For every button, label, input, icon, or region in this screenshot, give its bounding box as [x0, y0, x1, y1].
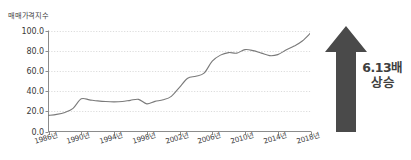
- change-label: 상승: [354, 75, 411, 90]
- multiplier-value: 6.13배: [362, 60, 402, 75]
- y-tick-label: 60.0: [27, 67, 44, 76]
- y-tick-label: 20.0: [27, 107, 44, 116]
- y-tick-label: 80.0: [27, 47, 44, 56]
- price-index-line: [49, 33, 311, 115]
- y-tick-label: 40.0: [27, 87, 44, 96]
- increase-annotation: 6.13배 상승: [354, 60, 411, 90]
- y-tick-label: 100.0: [22, 27, 44, 36]
- x-axis-tick-labels: 1986년1990년1994년1998년2002년2006년2010년2014년…: [0, 136, 411, 160]
- price-index-chart: 매매가격지수 0.020.040.060.080.0100.0 1986년199…: [0, 0, 411, 160]
